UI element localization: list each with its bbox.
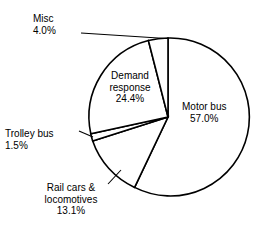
- leader-line-misc: [81, 33, 166, 39]
- slice-label-demand-response: Demand response 24.4%: [88, 70, 172, 105]
- slice-label-trolley-bus-name: Trolley bus: [5, 128, 54, 140]
- slice-label-trolley-bus: Trolley bus 1.5%: [5, 128, 54, 151]
- slice-label-misc-percent: 4.0%: [33, 25, 56, 37]
- slice-label-rail-cars: Rail cars & locomotives 13.1%: [28, 182, 114, 217]
- slice-label-rail-cars-name2: locomotives: [28, 194, 114, 206]
- slice-label-motor-bus: Motor bus 57.0%: [182, 101, 226, 124]
- slice-label-rail-cars-name1: Rail cars &: [28, 182, 114, 194]
- slice-label-misc-name: Misc: [33, 13, 56, 25]
- slice-label-demand-response-name1: Demand: [88, 70, 172, 82]
- pie-chart-figure: Misc 4.0% Demand response 24.4% Motor bu…: [0, 0, 271, 234]
- slice-label-motor-bus-name: Motor bus: [182, 101, 226, 113]
- slice-label-demand-response-name2: response: [88, 82, 172, 94]
- slice-label-misc: Misc 4.0%: [33, 13, 56, 36]
- slice-label-demand-response-percent: 24.4%: [88, 93, 172, 105]
- slice-label-trolley-bus-percent: 1.5%: [5, 140, 54, 152]
- slice-label-motor-bus-percent: 57.0%: [182, 113, 226, 125]
- slice-label-rail-cars-percent: 13.1%: [28, 205, 114, 217]
